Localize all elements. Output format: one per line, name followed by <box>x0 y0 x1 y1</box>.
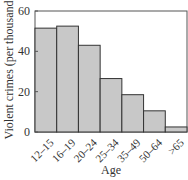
bar-50–64 <box>144 111 166 132</box>
y-tick-label: 60 <box>18 4 30 18</box>
bar-16–19 <box>57 26 79 132</box>
plot-area: 12–1516–1920–2425–3435–4950–64>650204060 <box>18 4 187 164</box>
x-tick-label: 25–34 <box>93 136 121 164</box>
bar->65 <box>165 127 187 132</box>
y-tick-label: 0 <box>24 125 30 139</box>
y-tick-label: 40 <box>18 44 30 58</box>
y-axis-label: Violent crimes (per thousand) <box>2 0 16 139</box>
x-axis-label: Age <box>101 163 121 177</box>
x-tick-label: 50–64 <box>136 136 164 164</box>
bar-12–15 <box>35 28 57 132</box>
x-tick-label: 35–49 <box>115 136 143 164</box>
x-tick-label: >65 <box>165 136 186 157</box>
y-tick-label: 20 <box>18 85 30 99</box>
x-tick-label: 20–24 <box>71 136 99 164</box>
bar-chart: 12–1516–1920–2425–3435–4950–64>650204060… <box>0 0 188 180</box>
bar-35–49 <box>122 95 144 132</box>
x-tick-label: 12–15 <box>28 136 56 164</box>
bar-25–34 <box>100 79 122 132</box>
bar-20–24 <box>78 45 100 132</box>
x-tick-label: 16–19 <box>49 136 77 164</box>
